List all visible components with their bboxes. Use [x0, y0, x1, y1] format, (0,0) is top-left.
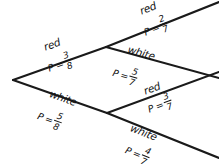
- p-equals-text: P =: [112, 67, 130, 82]
- tree-branches-svg: [0, 0, 219, 168]
- p-equals-text: P =: [142, 21, 161, 37]
- p-equals-text: P =: [46, 58, 65, 74]
- probability-tree-diagram: red P = 3 8 white P = 5 8 red P = 2 7 wh…: [0, 0, 219, 168]
- p-equals-text: P =: [146, 98, 165, 114]
- p-equals-text: P =: [36, 110, 55, 126]
